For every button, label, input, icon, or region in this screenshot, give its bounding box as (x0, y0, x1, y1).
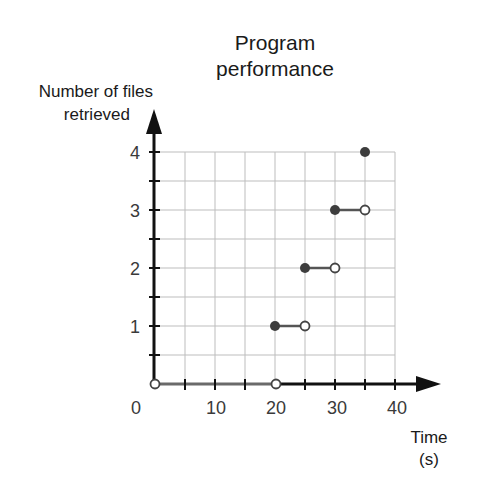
open-point (301, 322, 310, 331)
closed-point (270, 321, 280, 331)
y-axis (146, 109, 162, 384)
y-axis-arrow-icon (146, 109, 162, 134)
open-point (272, 380, 281, 389)
chart-title-line2: performance (216, 57, 334, 80)
x-axis-label-line2: (s) (419, 450, 439, 469)
open-point (331, 264, 340, 273)
open-point (151, 380, 160, 389)
closed-point (360, 147, 370, 157)
x-axis (276, 376, 441, 392)
y-tick-label: 3 (130, 201, 140, 221)
closed-point (300, 263, 310, 273)
y-tick-label: 4 (130, 143, 140, 163)
x-tick-label: 0 (131, 398, 141, 418)
step-chart: Program performance Number of files retr… (0, 0, 482, 497)
x-tick-label: 10 (206, 398, 226, 418)
x-tick-label: 20 (266, 398, 286, 418)
y-tick-label: 1 (130, 317, 140, 337)
grid (155, 152, 395, 384)
y-tick-label: 2 (130, 259, 140, 279)
closed-point (330, 205, 340, 215)
x-axis-label-line1: Time (410, 428, 447, 447)
x-tick-label: 40 (387, 398, 407, 418)
open-point (361, 206, 370, 215)
x-tick-label: 30 (327, 398, 347, 418)
y-axis-label-line2: retrieved (64, 105, 130, 124)
y-axis-label-line1: Number of files (39, 82, 153, 101)
x-axis-arrow-icon (416, 376, 441, 392)
chart-title-line1: Program (235, 31, 316, 54)
